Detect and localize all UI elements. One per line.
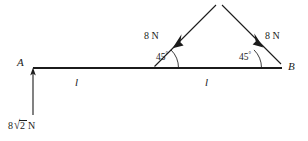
angle-left-arc [171,50,179,68]
square-root-icon: √2 [13,120,26,131]
angle-right-value: 45 [239,52,249,62]
figure-canvas: A B l l 8 N 8 N 45° 45° 8√2N [0,0,308,141]
force-label-at-a: 8√2N [8,120,35,131]
force-left-45-arrowhead [173,34,184,48]
force-label-right-8n: 8 N [265,31,280,41]
point-label-b: B [288,61,295,72]
force-right-45-arrowhead [253,34,264,48]
force-label-left-8n: 8 N [144,31,159,41]
segment-label-left: l [75,77,78,88]
force-at-a-radicand: 2 [19,121,26,131]
point-label-a: A [17,57,24,68]
angle-label-left: 45° [156,53,168,63]
segment-label-right: l [205,77,208,88]
angle-label-right: 45° [239,53,251,63]
angle-right-degree-icon: ° [249,50,252,57]
angle-left-value: 45 [156,52,166,62]
angle-left-degree-icon: ° [166,50,169,57]
force-diagram-svg [0,0,308,141]
force-at-a-unit: N [28,120,35,131]
angle-right-arc [254,50,262,68]
